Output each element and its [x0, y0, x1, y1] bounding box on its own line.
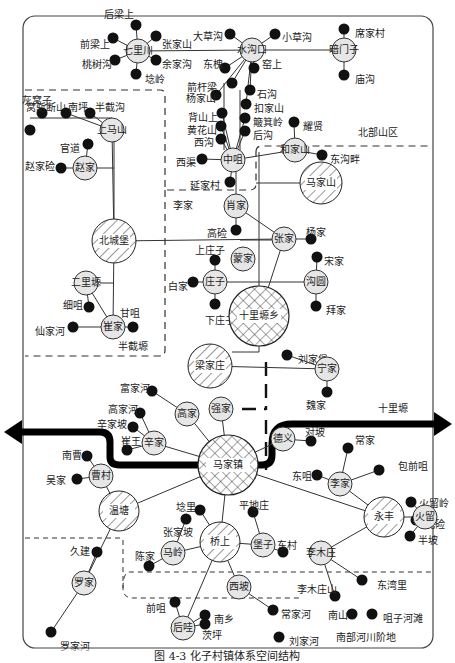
minor-center-label: 七里川	[123, 45, 153, 56]
minor-center-label: 二里塬	[71, 277, 101, 288]
key-town-label: 马家山	[306, 176, 336, 188]
village-label: 上庄子	[195, 244, 225, 256]
central-town-label: 马家镇	[213, 458, 243, 470]
village-label: 咀子河滩	[383, 612, 423, 624]
village-label: 包前咀	[398, 460, 428, 472]
village-dot	[339, 70, 350, 81]
minor-center-label: 李木庄	[306, 546, 336, 558]
village-label: 张家坡	[163, 526, 193, 538]
minor-center-label: 火留	[415, 510, 435, 522]
village-label: 崔王	[121, 435, 141, 447]
village-dot	[128, 322, 139, 333]
figure-caption: 图 4-3 化子村镇体系空间结构	[154, 649, 300, 663]
village-label: 对坡	[305, 426, 325, 438]
village-label: 前梁上	[80, 38, 110, 50]
minor-center-label: 曹村	[91, 469, 111, 481]
village-label: 赵家硷	[25, 160, 55, 172]
village-label: 杨家山	[186, 92, 216, 104]
village-label: 茨坪	[202, 629, 222, 641]
village-label: 官道	[60, 142, 80, 154]
village-label: 桃树沟	[82, 58, 112, 70]
village-dot	[200, 619, 211, 630]
village-label: 高硷	[207, 227, 227, 239]
town-system-diagram: 后梁上前梁上张家山桃树沟余家沟埝岭大草沟小草沟东槐窑上席家村庙沟箭杆梁杨家山石沟…	[0, 0, 455, 663]
village-label: 宋家	[324, 255, 344, 267]
village-dot	[231, 225, 242, 236]
village-label: 埝岭	[145, 73, 165, 85]
village-label: 西沟	[194, 136, 214, 148]
village-dot	[367, 609, 378, 620]
village-label: 半坡	[418, 534, 438, 546]
village-label: 东村	[277, 539, 297, 551]
region-label-east: 十里塬	[378, 402, 408, 414]
village-dot	[72, 474, 83, 485]
village-dot	[347, 609, 358, 620]
region-label-north: 北部山区	[358, 126, 398, 138]
village-dot	[274, 632, 285, 643]
key-town-label: 梁家庄	[195, 359, 225, 371]
minor-center-label: 暗门子	[329, 43, 359, 55]
village-label: 拜家	[326, 304, 346, 316]
village-dot	[83, 139, 94, 150]
village-dot	[343, 443, 354, 454]
minor-center-label: 和家山	[280, 143, 310, 155]
minor-center-label: 水沟口	[237, 43, 267, 55]
village-dot	[210, 255, 221, 266]
village-dot	[151, 31, 162, 42]
village-dot	[270, 29, 281, 40]
village-label: 耀贤	[303, 121, 323, 132]
village-label: 甘咀	[120, 307, 140, 319]
village-dot	[197, 154, 208, 165]
village-dot	[210, 299, 221, 310]
minor-center-label: 沟圆	[306, 275, 326, 287]
minor-center-label: 马岭	[163, 546, 183, 558]
village-label: 常家河	[281, 608, 311, 620]
village-dot	[85, 108, 96, 119]
minor-center-label: 蒙家	[233, 252, 253, 264]
village-dot	[289, 117, 300, 128]
minor-center-label: 后哇	[173, 621, 193, 633]
village-dot	[46, 627, 57, 638]
minor-center-label: 德义	[273, 432, 293, 444]
village-dot	[312, 252, 323, 263]
village-label: 常家	[355, 434, 375, 446]
village-dot	[282, 350, 293, 361]
village-dot	[170, 597, 181, 608]
village-dot	[374, 465, 385, 476]
region-label-west: 半截塬	[118, 340, 148, 352]
village-label: 东槐	[203, 58, 223, 70]
minor-center-label: 强家	[211, 402, 231, 414]
village-label: 李家	[173, 199, 193, 211]
village-label: 李木庄山	[297, 583, 337, 595]
village-dot	[339, 24, 350, 35]
minor-center-label: 宁家	[317, 362, 337, 374]
village-dot	[84, 302, 95, 313]
village-label: 后梁上	[104, 8, 134, 20]
village-label: 西渠	[176, 157, 196, 168]
village-dot	[240, 113, 251, 124]
village-label: 窑上	[262, 58, 282, 70]
road-arrow-east	[434, 412, 452, 436]
minor-center-label: 庄子	[205, 275, 225, 287]
minor-center-label: 罗家	[74, 576, 94, 588]
minor-center-label: 崔家	[103, 320, 123, 332]
village-dot	[131, 20, 142, 31]
village-dot	[406, 497, 417, 508]
village-label: 小草沟	[282, 31, 312, 43]
region-label-south: 南部河川阶地	[336, 631, 396, 643]
village-label: 平地庄	[239, 499, 269, 511]
village-label: 前咀	[146, 602, 166, 614]
village-label: 东咀	[292, 470, 312, 482]
village-dot	[311, 301, 322, 312]
village-label: 延家村	[190, 179, 220, 191]
minor-center-label: 中咀	[223, 153, 243, 165]
village-dot	[56, 163, 67, 174]
village-label: 东湾里	[377, 579, 407, 591]
village-label: 石沟	[257, 88, 277, 100]
village-label: 南曹	[62, 449, 82, 461]
village-label: 背山上	[188, 111, 218, 123]
village-dot	[225, 29, 236, 40]
village-label: 扣家山	[254, 102, 284, 114]
village-dot	[268, 605, 279, 616]
village-dot	[128, 422, 139, 433]
